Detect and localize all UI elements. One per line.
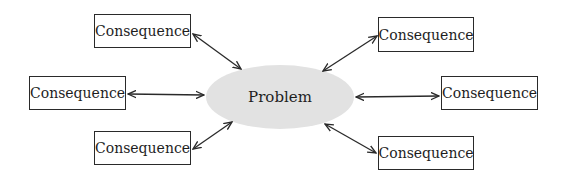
arrow-top-left xyxy=(193,34,241,69)
consequence-box-middle-left: Consequence xyxy=(29,76,126,110)
consequence-box-bottom-left: Consequence xyxy=(94,131,191,165)
arrow-middle-right xyxy=(356,96,439,97)
consequence-box-top-left: Consequence xyxy=(94,14,191,48)
arrow-middle-left xyxy=(128,94,204,95)
consequence-box-top-right: Consequence xyxy=(378,17,474,52)
consequence-box-middle-right: Consequence xyxy=(441,76,538,110)
problem-label: Problem xyxy=(206,65,354,129)
consequence-box-bottom-right: Consequence xyxy=(378,136,474,170)
